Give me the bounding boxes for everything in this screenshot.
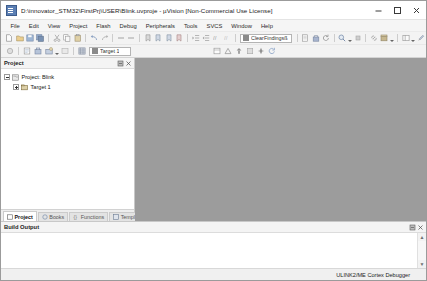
project-panel-header-buttons <box>116 59 134 67</box>
undo-icon[interactable] <box>89 33 99 43</box>
run-to-main-icon[interactable] <box>222 46 233 56</box>
panel-close-icon[interactable] <box>124 59 132 67</box>
tab-books-label: Books <box>49 214 64 220</box>
window-controls <box>369 1 426 19</box>
outdent-icon[interactable] <box>201 33 211 43</box>
build-output-scrollbar[interactable]: ▲ ▼ <box>417 233 426 268</box>
toolbar-separator <box>187 34 188 42</box>
window-layout-icon[interactable] <box>400 33 410 43</box>
copy-icon[interactable] <box>62 33 72 43</box>
manage-project-icon[interactable] <box>211 46 222 56</box>
menu-flash[interactable]: Flash <box>92 23 115 29</box>
comment-icon[interactable]: // <box>211 33 221 43</box>
bookmark-list-icon[interactable] <box>300 33 310 43</box>
resize-grip-icon[interactable] <box>416 270 426 280</box>
scroll-down-icon[interactable]: ▼ <box>418 260 426 268</box>
menu-project[interactable]: Project <box>65 23 92 29</box>
find-in-files-box[interactable]: ClearFindingsß <box>240 34 292 43</box>
stop-build-icon[interactable] <box>352 33 362 43</box>
build-output-header-buttons <box>408 223 426 231</box>
new-file-icon[interactable] <box>4 33 14 43</box>
scroll-up-icon[interactable]: ▲ <box>418 233 426 241</box>
close-button[interactable] <box>407 1 426 19</box>
build-output-header: Build Output <box>1 222 426 233</box>
paste-icon[interactable] <box>73 33 83 43</box>
cursor-icon[interactable] <box>255 46 266 56</box>
indent-icon[interactable] <box>190 33 200 43</box>
pack-dropdown-caret[interactable] <box>390 32 395 44</box>
target-selector[interactable]: Target 1 <box>89 47 131 56</box>
bookmark-prev-icon[interactable] <box>153 33 163 43</box>
toolbar-separator <box>397 34 398 42</box>
pack-installer-icon[interactable] <box>379 33 389 43</box>
menu-debug[interactable]: Debug <box>115 23 141 29</box>
toolbar-separator <box>334 34 335 42</box>
debug-start-icon[interactable] <box>4 46 15 56</box>
bookmark-clear-icon[interactable] <box>174 33 184 43</box>
scroll-track[interactable] <box>418 241 426 260</box>
redo-icon[interactable] <box>99 33 109 43</box>
rebuild-all-icon[interactable] <box>43 46 54 56</box>
tab-project-label: Project <box>15 214 33 220</box>
bookmark-toggle-icon[interactable] <box>143 33 153 43</box>
rebuild-icon[interactable] <box>321 33 331 43</box>
toolbar-separator <box>112 34 113 42</box>
menu-window[interactable]: Window <box>227 23 257 29</box>
title-bar: D:\innovator_STM32\FirstPrj\USER\Blink.u… <box>1 1 426 20</box>
build-icon[interactable] <box>310 33 320 43</box>
tab-functions[interactable]: {} Functions <box>69 212 108 221</box>
project-tree[interactable]: Project: Blink Target 1 <box>1 69 134 209</box>
menu-file[interactable]: File <box>6 23 24 29</box>
target-options-icon[interactable] <box>76 46 87 56</box>
nav-back-icon[interactable] <box>116 33 126 43</box>
menu-view[interactable]: View <box>43 23 64 29</box>
uvision-window: D:\innovator_STM32\FirstPrj\USER\Blink.u… <box>0 0 427 281</box>
pin-icon[interactable] <box>116 59 124 67</box>
link-icon[interactable] <box>369 33 379 43</box>
project-panel-title: Project <box>4 60 24 66</box>
toolbar-separator <box>139 34 140 42</box>
nav-forward-icon[interactable] <box>126 33 136 43</box>
functions-icon: {} <box>73 214 79 220</box>
target-selector-value: Target 1 <box>100 48 119 54</box>
status-bar: ULINK2/ME Cortex Debugger <box>1 268 426 280</box>
tree-node-project-label: Project: Blink <box>22 74 55 80</box>
editor-mdi-area[interactable] <box>135 58 426 221</box>
pin-icon[interactable] <box>408 223 416 231</box>
expander-minus-icon[interactable] <box>4 74 10 80</box>
open-file-icon[interactable] <box>14 33 24 43</box>
tab-books[interactable]: Books <box>38 212 68 221</box>
zoom-icon[interactable] <box>337 33 347 43</box>
project-tab-icon <box>7 214 13 220</box>
save-all-icon[interactable] <box>35 33 45 43</box>
uncomment-icon[interactable]: // <box>222 33 232 43</box>
tree-node-target[interactable]: Target 1 <box>4 83 134 91</box>
toolbar-separator <box>365 34 366 42</box>
save-icon[interactable] <box>25 33 35 43</box>
expander-plus-icon[interactable] <box>13 84 19 90</box>
settings-icon[interactable] <box>416 33 426 43</box>
toolbar-separator <box>297 34 298 42</box>
toolbar-separator <box>85 34 86 42</box>
reset-icon[interactable] <box>266 46 277 56</box>
menu-svcs[interactable]: SVCS <box>202 23 227 29</box>
menu-peripherals[interactable]: Peripherals <box>141 23 179 29</box>
tab-project[interactable]: Project <box>3 211 37 221</box>
menu-tools[interactable]: Tools <box>179 23 202 29</box>
find-in-files-value: ClearFindingsß <box>251 35 288 41</box>
batch-build-icon[interactable] <box>59 46 70 56</box>
menu-edit[interactable]: Edit <box>24 23 43 29</box>
build-target-icon[interactable] <box>32 46 43 56</box>
multi-project-icon[interactable] <box>233 46 244 56</box>
minimize-button[interactable] <box>369 1 388 19</box>
tree-node-project[interactable]: Project: Blink <box>4 73 134 81</box>
panel-close-icon[interactable] <box>416 223 424 231</box>
translate-icon[interactable] <box>21 46 32 56</box>
pack-icon[interactable] <box>244 46 255 56</box>
svg-text:{}: {} <box>74 214 78 220</box>
bookmark-next-icon[interactable] <box>163 33 173 43</box>
cut-icon[interactable] <box>52 33 62 43</box>
build-output-text[interactable] <box>1 233 417 268</box>
menu-help[interactable]: Help <box>256 23 277 29</box>
maximize-button[interactable] <box>388 1 407 19</box>
